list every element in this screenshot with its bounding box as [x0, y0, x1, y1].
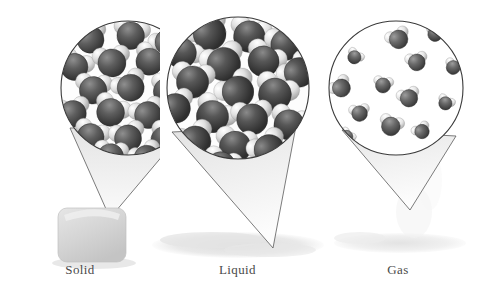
panel-gas: Gas: [318, 0, 478, 295]
label-gas: Gas: [318, 262, 478, 278]
gas-illustration: [318, 0, 478, 295]
label-solid: Solid: [0, 262, 160, 278]
solid-illustration: [0, 0, 160, 295]
liquid-illustration: [150, 0, 325, 295]
label-liquid: Liquid: [150, 262, 325, 278]
panel-liquid: Liquid: [150, 0, 325, 295]
panel-solid: Solid: [0, 0, 160, 295]
states-of-matter-figure: Solid: [0, 0, 478, 295]
hydrogen-atom: [56, 135, 75, 154]
sample-ice-cube: [52, 208, 136, 269]
sample-water-puddle: [152, 232, 324, 258]
